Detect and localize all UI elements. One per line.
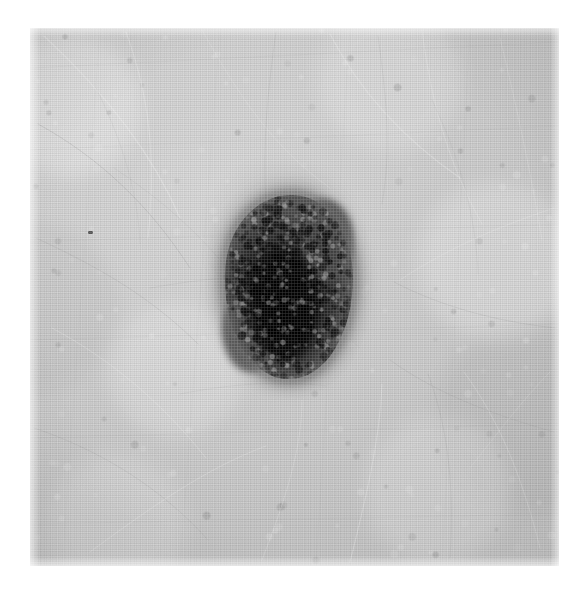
skin-mottling: [30, 28, 559, 566]
photo-page: [0, 0, 587, 591]
lesion-photograph: [30, 28, 559, 566]
stray-speck: [88, 231, 93, 234]
